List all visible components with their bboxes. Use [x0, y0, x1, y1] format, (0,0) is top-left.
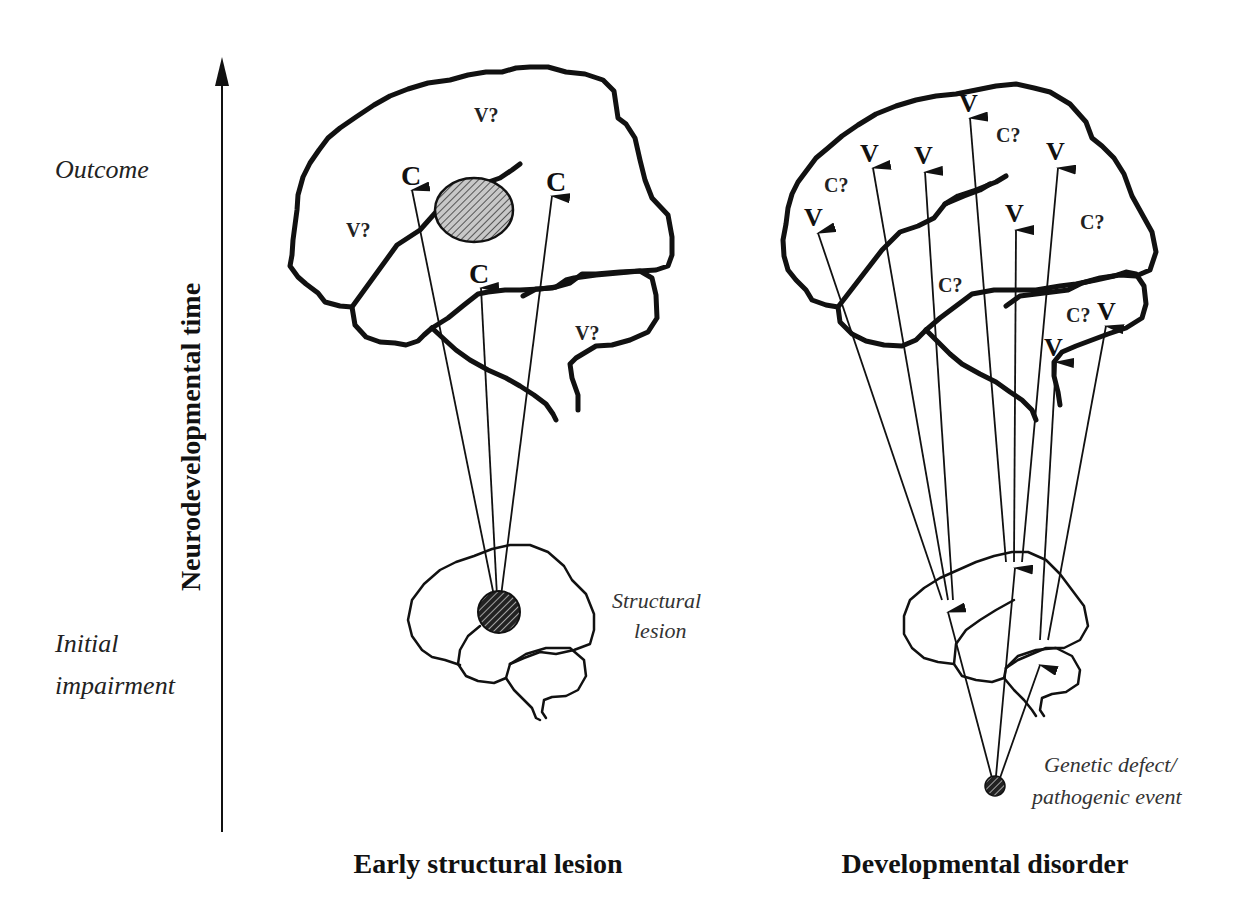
genetic-defect-label-line2: pathogenic event [1030, 784, 1183, 809]
small-brainstem-outline [506, 678, 540, 720]
outcome-mark-c-uncertain: C? [938, 274, 962, 296]
arrow [873, 168, 948, 600]
genetic-defect-origin [985, 776, 1005, 796]
outcome-mark-v: V [860, 139, 879, 168]
outcome-mark-c-uncertain: C? [1080, 211, 1104, 233]
outcome-label: Outcome [55, 155, 149, 184]
brainstem-outline [926, 330, 1036, 420]
cerebellum-outline [432, 271, 657, 410]
outcome-mark-c-uncertain: C? [824, 174, 848, 196]
outcome-mark-v: V [1005, 199, 1024, 228]
arrow [948, 612, 992, 778]
outcome-mark-c: C [401, 160, 421, 191]
arrow [925, 172, 953, 600]
small-brainstem-outline [1004, 678, 1036, 716]
genetic-defect-label-line1: Genetic defect/ [1044, 752, 1178, 777]
right-arrows [818, 118, 1106, 778]
outcome-mark-v: V [804, 203, 823, 232]
outcome-mark-c: C [469, 258, 489, 289]
small-cerebellum-outline [1006, 648, 1080, 716]
arrow [1014, 230, 1016, 562]
initial-impairment-label-line2: impairment [55, 671, 176, 700]
time-axis-title: Neurodevelopmental time [175, 283, 206, 591]
temporal-lobe-outline [838, 184, 990, 346]
outcome-mark-v-uncertain: V? [474, 104, 498, 126]
structural-lesion-label-line2: lesion [634, 618, 687, 643]
outcome-mark-v: V [959, 89, 978, 118]
outcome-mark-v: V [1097, 297, 1116, 326]
lesion-outcome-region [435, 178, 513, 242]
arrow [818, 233, 942, 600]
panel-caption-right: Developmental disorder [842, 848, 1129, 879]
outcome-mark-v: V [1046, 137, 1065, 166]
outcome-brain-right [783, 84, 1156, 420]
outcome-mark-c-uncertain: C? [996, 124, 1020, 146]
initial-brain-left [408, 545, 594, 720]
arrow [1048, 326, 1106, 640]
time-axis: Neurodevelopmental time [175, 57, 229, 832]
outcome-mark-c-uncertain: C? [1066, 304, 1090, 326]
small-temporal-outline [458, 626, 510, 683]
arrow [412, 190, 494, 596]
initial-impairment-label-line1: Initial [54, 629, 119, 658]
structural-lesion-origin [478, 591, 520, 633]
diagram-canvas: Neurodevelopmental time Outcome Initial … [0, 0, 1259, 898]
outcome-mark-v: V [914, 141, 933, 170]
outcome-mark-c: C [546, 166, 566, 197]
panel-caption-left: Early structural lesion [353, 848, 623, 879]
brainstem-outline [432, 328, 556, 420]
structural-lesion-label-line1: Structural [612, 588, 701, 613]
panel-developmental-disorder: V V V V V V V V C? C? C? C? C? Genetic d… [783, 84, 1183, 879]
outcome-mark-v-uncertain: V? [575, 322, 599, 344]
panel-early-structural-lesion: C C C V? V? V? Structural lesion Early s… [290, 67, 701, 879]
arrow [501, 196, 552, 596]
arrow [1040, 362, 1056, 640]
outcome-mark-v: V [1044, 333, 1063, 362]
outcome-mark-v-uncertain: V? [346, 219, 370, 241]
time-axis-arrowhead [215, 57, 229, 86]
